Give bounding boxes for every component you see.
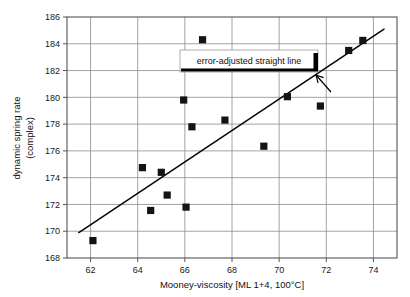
y-tick-label: 180	[45, 93, 60, 103]
y-tick-label: 170	[45, 226, 60, 236]
y-tick-label: 184	[45, 39, 60, 49]
x-tick-label: 74	[368, 265, 378, 275]
legend-callout[interactable]: error-adjusted straight line	[180, 50, 318, 72]
y-tick-label: 168	[45, 253, 60, 263]
y-tick-label: 174	[45, 173, 60, 183]
data-point-marker	[139, 164, 146, 171]
data-point-marker	[199, 36, 206, 43]
chart-figure: 62646668707274 1681701721741761781801821…	[0, 0, 410, 297]
data-point-marker	[147, 207, 154, 214]
data-point-marker	[317, 102, 324, 109]
data-point-marker	[260, 143, 267, 150]
x-tick-label: 62	[86, 265, 96, 275]
legend-right-bar	[314, 53, 319, 71]
y-tick-label: 182	[45, 66, 60, 76]
y-tick-label: 172	[45, 200, 60, 210]
x-tick-label: 66	[180, 265, 190, 275]
data-point-marker	[359, 37, 366, 44]
y-axis-title-line1: dynamic spring rate	[11, 97, 22, 180]
y-axis-title-line2: (complex)	[24, 117, 35, 159]
data-point-marker	[180, 96, 187, 103]
y-tick-label: 186	[45, 12, 60, 22]
x-tick-label: 64	[133, 265, 143, 275]
x-tick-label: 72	[321, 265, 331, 275]
data-point-marker	[89, 237, 96, 244]
x-axis-title: Mooney-viscosity [ML 1+4, 100°C]	[160, 279, 304, 290]
data-point-marker	[158, 169, 165, 176]
data-point-marker	[182, 204, 189, 211]
legend-underline-bar	[181, 69, 318, 72]
y-tick-label: 176	[45, 146, 60, 156]
data-point-marker	[188, 123, 195, 130]
legend-label: error-adjusted straight line	[197, 56, 302, 66]
data-point-marker	[284, 93, 291, 100]
scatter-plot: 62646668707274 1681701721741761781801821…	[0, 0, 410, 297]
data-point-marker	[345, 47, 352, 54]
y-tick-label: 178	[45, 119, 60, 129]
data-point-marker	[164, 191, 171, 198]
x-tick-label: 68	[227, 265, 237, 275]
data-point-marker	[221, 116, 228, 123]
x-tick-label: 70	[274, 265, 284, 275]
